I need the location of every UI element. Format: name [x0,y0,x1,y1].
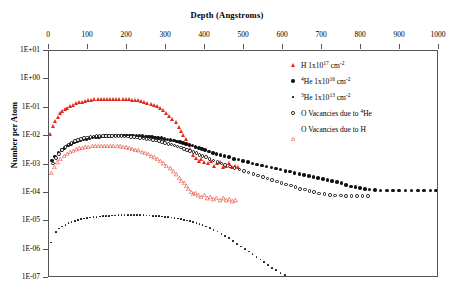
y-tick-label: 1E-06 [6,244,40,253]
x-tick-mark [48,44,49,49]
legend-label: 4He 1x1016 cm-2 [301,77,351,86]
x-tick-label: 300 [145,30,185,39]
data-point [55,151,60,155]
chart-legend: H 1x1017 cm-24He 1x1016 cm-23He 1x1013 c… [285,57,445,137]
x-tick-label: 0 [28,30,68,39]
x-tick-label: 800 [340,30,380,39]
chart-title: Depth (Angstroms) [0,10,454,20]
x-tick-mark [360,44,361,49]
x-tick-mark [399,44,400,49]
x-tick-mark [321,44,322,49]
x-tick-mark [126,44,127,49]
legend-marker-icon [285,127,301,131]
x-tick-label: 1000 [418,30,454,39]
x-tick-mark [438,44,439,49]
x-tick-label: 900 [379,30,419,39]
legend-marker-icon [285,111,301,115]
chart-root: Depth (Angstroms) Number per Atom 010020… [0,0,454,294]
data-point [52,155,57,159]
x-tick-label: 500 [223,30,263,39]
y-tick-label: 1E-05 [6,215,40,224]
x-tick-mark [204,44,205,49]
x-tick-label: 700 [301,30,341,39]
legend-marker-icon [285,96,301,98]
x-tick-mark [165,44,166,49]
x-tick-label: 100 [67,30,107,39]
x-tick-label: 200 [106,30,146,39]
legend-marker-icon [285,63,301,67]
y-tick-label: 1E-01 [6,102,40,111]
x-tick-mark [243,44,244,49]
y-tick-label: 1E+00 [6,73,40,82]
data-point [289,276,291,277]
x-tick-mark [282,44,283,49]
x-tick-label: 400 [184,30,224,39]
legend-item-3[interactable]: O Vacancies due to 4He [285,105,445,121]
data-point [233,189,238,193]
y-tick-label: 1E-03 [6,159,40,168]
x-tick-mark [87,44,88,49]
y-tick-label: 1E-04 [6,187,40,196]
legend-marker-icon [285,79,301,83]
y-tick-label: 1E+01 [6,45,40,54]
y-tick-mark [43,277,48,278]
legend-label: 3He 1x1013 cm-2 [301,93,351,102]
legend-item-0[interactable]: H 1x1017 cm-2 [285,57,445,73]
legend-label: O Vacancies due to H [301,125,366,134]
legend-label: H 1x1017 cm-2 [301,61,344,70]
legend-item-1[interactable]: 4He 1x1016 cm-2 [285,73,445,89]
y-tick-label: 1E-02 [6,130,40,139]
y-tick-label: 1E-07 [6,272,40,281]
legend-item-4[interactable]: O Vacancies due to H [285,121,445,137]
legend-item-2[interactable]: 3He 1x1013 cm-2 [285,89,445,105]
legend-label: O Vacancies due to 4He [301,109,372,118]
x-tick-label: 600 [262,30,302,39]
